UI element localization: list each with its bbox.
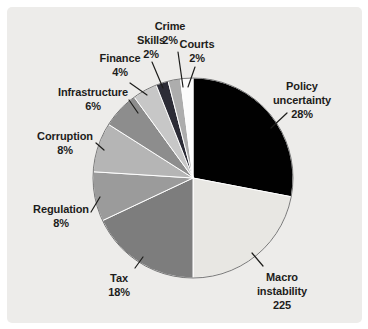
leader-line-finance xyxy=(130,83,147,95)
pie-chart xyxy=(0,0,368,329)
pie-slice-policy xyxy=(193,78,293,197)
figure-stage: Policyuncertainty28%Macroinstability225T… xyxy=(0,0,368,329)
